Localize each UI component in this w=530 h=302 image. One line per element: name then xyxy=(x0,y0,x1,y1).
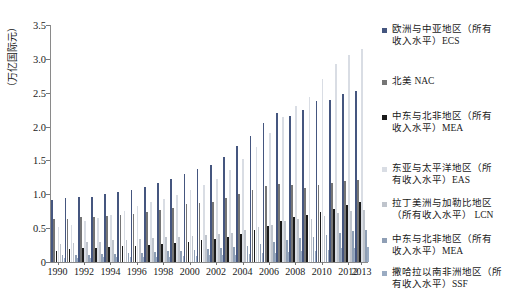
x-axis-tick-label: 1992 xyxy=(74,266,94,277)
bar-group xyxy=(170,25,184,262)
legend-item-lcn[interactable]: 拉丁美洲与加勒比地区 （所有收入水平） LCN xyxy=(382,198,493,221)
bar-group xyxy=(276,25,290,262)
bar-group xyxy=(236,25,250,262)
bar-group xyxy=(104,25,118,262)
legend-swatch-icon xyxy=(382,167,387,172)
x-axis-tick-label: 2008 xyxy=(285,266,305,277)
x-axis-tick-mark xyxy=(137,262,138,265)
bar-group xyxy=(65,25,79,262)
legend-swatch-icon xyxy=(382,271,387,276)
x-axis-tick-label: 1996 xyxy=(127,266,147,277)
x-axis-tick-mark xyxy=(190,262,191,265)
bar-group xyxy=(144,25,158,262)
legend-item-eas[interactable]: 东亚与太平洋地区（所 有收入水平）EAS xyxy=(382,163,492,186)
x-axis-tick-mark xyxy=(322,262,323,265)
x-axis-tick-label: 2002 xyxy=(206,266,226,277)
y-axis-tick-label: 2.5 xyxy=(33,87,46,98)
legend-item-ecs[interactable]: 欧洲与中亚地区（所有 收入水平）ECS xyxy=(382,24,492,47)
bar-group xyxy=(355,25,369,262)
legend-swatch-icon xyxy=(382,202,387,207)
bar-group xyxy=(210,25,224,262)
y-axis-tick-label: 2.0 xyxy=(33,121,46,132)
bar-group xyxy=(263,25,277,262)
y-axis-tick-label: 3.5 xyxy=(33,20,46,31)
bar-groups xyxy=(51,25,368,262)
bar-group xyxy=(91,25,105,262)
legend-label: 欧洲与中亚地区（所有 收入水平）ECS xyxy=(392,24,492,47)
legend-item-nac[interactable]: 北美 NAC xyxy=(382,76,434,88)
x-axis-line xyxy=(50,262,368,263)
x-axis-tick-mark xyxy=(84,262,85,265)
y-axis-tick-labels: 00.51.01.52.02.53.03.5 xyxy=(18,0,46,302)
legend-swatch-icon xyxy=(382,238,387,243)
legend-label: 北美 NAC xyxy=(392,76,434,88)
legend-swatch-icon xyxy=(382,80,387,85)
x-axis-tick-mark xyxy=(163,262,164,265)
x-axis-tick-mark xyxy=(361,262,362,265)
bar-group xyxy=(131,25,145,262)
x-axis-tick-mark xyxy=(269,262,270,265)
bar-group xyxy=(329,25,343,262)
x-axis-tick-mark xyxy=(295,262,296,265)
bar-group xyxy=(184,25,198,262)
bar-group xyxy=(78,25,92,262)
bar-group xyxy=(302,25,316,262)
legend-item-mea[interactable]: 中东与北非地区（所有 收入水平）MEA xyxy=(382,111,492,134)
bar-group xyxy=(223,25,237,262)
legend-label: 中东与北非地区（所有 收入水平）MEA xyxy=(392,111,492,134)
y-axis-tick-label: 0.5 xyxy=(33,223,46,234)
x-axis-tick-label: 1990 xyxy=(48,266,68,277)
bar-group xyxy=(197,25,211,262)
y-axis-tick-label: 3.0 xyxy=(33,53,46,64)
legend-item-ssf[interactable]: 撒哈拉以南非洲地区（所 有收入水平）SSF xyxy=(382,267,502,290)
legend-item-mea[interactable]: 中东与北非地区（所有 收入水平）MEA xyxy=(382,234,492,257)
legend-label: 中东与北非地区（所有 收入水平）MEA xyxy=(392,234,492,257)
y-axis-title: （万亿国际元） xyxy=(4,0,19,92)
x-axis-tick-label: 2000 xyxy=(180,266,200,277)
bar-group xyxy=(51,25,65,262)
x-axis-tick-label: 1998 xyxy=(153,266,173,277)
legend-swatch-icon xyxy=(382,115,387,120)
x-axis-tick-mark xyxy=(110,262,111,265)
legend-swatch-icon xyxy=(382,28,387,33)
chart-legend: 欧洲与中亚地区（所有 收入水平）ECS北美 NAC中东与北非地区（所有 收入水平… xyxy=(382,0,530,302)
legend-label: 东亚与太平洋地区（所 有收入水平）EAS xyxy=(392,163,492,186)
y-axis-tick-label: 1.5 xyxy=(33,155,46,166)
x-axis-tick-mark xyxy=(243,262,244,265)
legend-label: 拉丁美洲与加勒比地区 （所有收入水平） LCN xyxy=(392,198,493,221)
bar-group xyxy=(117,25,131,262)
x-axis-tick-mark xyxy=(58,262,59,265)
legend-label: 撒哈拉以南非洲地区（所 有收入水平）SSF xyxy=(392,267,502,290)
plot-area: （万亿国际元） 00.51.01.52.02.53.03.5 199019921… xyxy=(0,0,380,302)
x-axis-tick-mark xyxy=(216,262,217,265)
bar-group xyxy=(250,25,264,262)
x-axis-tick-label: 1994 xyxy=(100,266,120,277)
x-axis-tick-label: 2006 xyxy=(259,266,279,277)
x-axis-tick-label: 2004 xyxy=(233,266,253,277)
x-axis-tick-label: 2010 xyxy=(312,266,332,277)
bar xyxy=(367,247,369,262)
bar-group xyxy=(342,25,356,262)
bar-group xyxy=(316,25,330,262)
chart-root: （万亿国际元） 00.51.01.52.02.53.03.5 199019921… xyxy=(0,0,530,302)
bar-group xyxy=(289,25,303,262)
x-axis-tick-label: 2013 xyxy=(351,266,371,277)
x-axis-tick-mark xyxy=(348,262,349,265)
bar-group xyxy=(157,25,171,262)
y-axis-tick-label: 1.0 xyxy=(33,189,46,200)
